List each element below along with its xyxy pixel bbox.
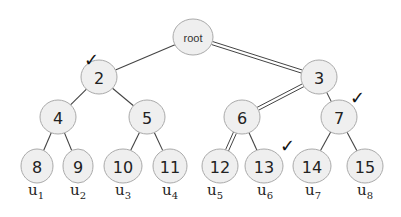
node-label: 7: [334, 109, 344, 128]
tree-node-9: 9: [63, 149, 93, 183]
node-label: root: [184, 32, 203, 44]
leaf-label-u6: u6: [257, 181, 273, 201]
leaf-label-u7: u7: [305, 181, 321, 201]
checkmark-icon: ✓: [84, 49, 99, 70]
edge-n4-n9: [64, 133, 71, 151]
node-label: 8: [32, 158, 42, 177]
leaf-label-u1: u1: [28, 181, 44, 201]
tree-node-4: 4: [40, 100, 76, 134]
node-label: 11: [160, 158, 180, 177]
node-label: 10: [113, 158, 133, 177]
tree-node-3: 3: [301, 60, 337, 94]
edge-n2-n4: [71, 89, 87, 105]
edge-n6-n13: [249, 133, 257, 151]
leaf-label-u2: u2: [70, 181, 86, 201]
tree-node-15: 15: [347, 149, 383, 183]
edge-n7-n15: [347, 132, 357, 151]
tree-node-10: 10: [104, 149, 142, 183]
tree-node-14: 14: [293, 149, 331, 183]
tree-node-11: 11: [153, 149, 187, 183]
edge-n7-n14: [320, 132, 330, 151]
node-label: 15: [355, 158, 375, 177]
checkmark-icon: ✓: [350, 87, 365, 108]
node-label: 5: [142, 109, 152, 128]
leaf-labels-layer: u1u2u3u4u5u6u7u8: [28, 181, 373, 201]
node-label: 9: [73, 158, 83, 177]
tree-node-12: 12: [202, 149, 238, 183]
edge-n3-n6: [257, 84, 304, 110]
node-label: 4: [53, 109, 63, 128]
node-label: 12: [210, 158, 230, 177]
leaf-label-u3: u3: [115, 181, 131, 201]
node-label: 13: [254, 158, 274, 177]
tree-node-8: 8: [21, 149, 53, 183]
edge-n5-n10: [131, 132, 140, 150]
tree-svg: root23456789101112131415 u1u2u3u4u5u6u7u…: [0, 0, 401, 217]
tree-node-6: 6: [224, 100, 260, 134]
edge-n6-n12: [226, 132, 237, 151]
edge-n3-n7: [327, 92, 332, 101]
tree-node-root: root: [173, 19, 213, 55]
edge-n5-n11: [154, 133, 162, 151]
node-label: 14: [302, 158, 322, 177]
node-label: 2: [94, 69, 104, 88]
leaf-label-u8: u8: [357, 181, 373, 201]
tree-node-13: 13: [245, 149, 283, 183]
node-label: 3: [314, 69, 324, 88]
leaf-label-u4: u4: [162, 181, 178, 201]
leaf-label-u5: u5: [207, 181, 223, 201]
tree-diagram: root23456789101112131415 u1u2u3u4u5u6u7u…: [0, 0, 401, 217]
edge-root-n3: [211, 41, 302, 73]
nodes-layer: root23456789101112131415: [21, 19, 383, 183]
checkmark-icon: ✓: [280, 135, 295, 156]
tree-node-5: 5: [129, 100, 165, 134]
edge-root-n2: [115, 45, 175, 70]
node-label: 6: [237, 109, 247, 128]
edge-n4-n8: [44, 133, 52, 151]
edge-n2-n5: [112, 88, 133, 106]
